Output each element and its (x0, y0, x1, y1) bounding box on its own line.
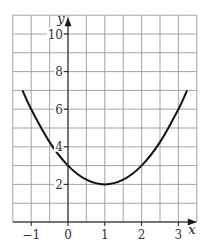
parabola-chart: −10123246810xy (0, 0, 206, 246)
x-tick-label: 3 (175, 228, 183, 242)
y-tick-label: 8 (55, 65, 63, 79)
x-tick-label: 0 (64, 228, 72, 242)
x-tick-label: 1 (101, 228, 109, 242)
y-tick-label: 10 (48, 28, 63, 42)
x-tick-label: −1 (22, 228, 40, 242)
grid-lines (13, 15, 197, 222)
x-axis-label: x (188, 222, 196, 237)
y-tick-label: 4 (55, 140, 63, 154)
y-axis-label: y (56, 11, 65, 26)
y-tick-label: 2 (55, 178, 63, 192)
x-tick-label: 2 (138, 228, 146, 242)
y-tick-label: 6 (55, 103, 63, 117)
y-axis-arrow-icon (65, 17, 72, 26)
